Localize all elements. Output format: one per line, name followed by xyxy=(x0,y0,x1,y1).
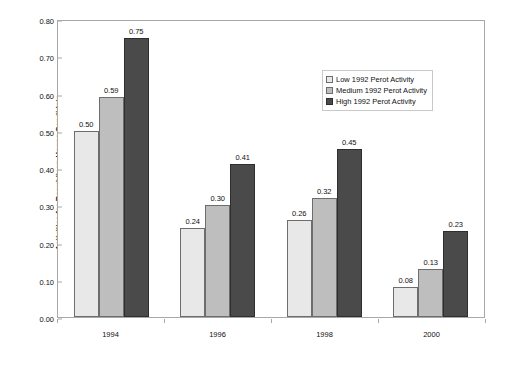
legend-swatch-icon xyxy=(326,98,333,105)
bar-slot: 0.41 xyxy=(230,164,255,317)
bar-value-label: 0.41 xyxy=(235,153,250,162)
bar-group: 0.080.130.23 xyxy=(378,21,485,317)
bar-value-label: 0.45 xyxy=(342,138,357,147)
bar-slot: 0.30 xyxy=(205,205,230,317)
bar-slot: 0.08 xyxy=(393,287,418,317)
x-tick-label-1998: 1998 xyxy=(271,319,378,339)
bar-groups: 0.500.590.750.240.300.410.260.320.450.08… xyxy=(58,21,484,317)
bar-slot: 0.75 xyxy=(124,38,149,317)
bar-slot: 0.50 xyxy=(74,131,99,317)
bar-value-label: 0.13 xyxy=(423,258,438,267)
y-tick-label: 0.30 xyxy=(39,203,58,212)
x-tick-mark xyxy=(271,319,272,323)
bar-slot: 0.59 xyxy=(99,97,124,317)
bar-low-1994[interactable] xyxy=(74,131,99,317)
bar-value-label: 0.24 xyxy=(185,217,200,226)
plot-area: 0.800.700.600.500.400.300.200.100.00 0.5… xyxy=(57,20,485,318)
x-tick-label-2000: 2000 xyxy=(378,319,485,339)
bar-low-1996[interactable] xyxy=(180,228,205,317)
x-tick-mark xyxy=(57,319,58,323)
legend-swatch-icon xyxy=(326,76,333,83)
chart-legend: Low 1992 Perot ActivityMedium 1992 Perot… xyxy=(322,70,433,111)
y-tick-label: 0.40 xyxy=(39,166,58,175)
bar-high-2000[interactable] xyxy=(443,231,468,317)
bar-group: 0.240.300.41 xyxy=(165,21,272,317)
bar-value-label: 0.32 xyxy=(317,187,332,196)
bar-value-label: 0.50 xyxy=(79,120,94,129)
bar-value-label: 0.75 xyxy=(129,27,144,36)
bar-value-label: 0.59 xyxy=(104,86,119,95)
y-tick-label: 0.80 xyxy=(39,17,58,26)
x-tick-label-1996: 1996 xyxy=(164,319,271,339)
y-tick-label: 0.00 xyxy=(39,315,58,324)
legend-swatch-icon xyxy=(326,87,333,94)
bar-slot: 0.13 xyxy=(418,269,443,317)
y-tick-label: 0.50 xyxy=(39,128,58,137)
x-tick-mark xyxy=(164,319,165,323)
bar-slot: 0.23 xyxy=(443,231,468,317)
bar-high-1998[interactable] xyxy=(337,149,362,317)
bar-group: 0.500.590.75 xyxy=(58,21,165,317)
legend-item-label: High 1992 Perot Activity xyxy=(336,97,416,106)
bar-slot: 0.24 xyxy=(180,228,205,317)
bar-value-label: 0.26 xyxy=(292,209,307,218)
x-tick-mark xyxy=(485,319,486,323)
bar-medium-2000[interactable] xyxy=(418,269,443,317)
bar-value-label: 0.08 xyxy=(398,276,413,285)
legend-item-low[interactable]: Low 1992 Perot Activity xyxy=(326,74,427,85)
bar-high-1996[interactable] xyxy=(230,164,255,317)
bar-low-2000[interactable] xyxy=(393,287,418,317)
bar-low-1998[interactable] xyxy=(287,220,312,317)
x-tick-mark xyxy=(378,319,379,323)
y-tick-label: 0.20 xyxy=(39,240,58,249)
bar-chart: Activities for Republican House Candidat… xyxy=(0,0,505,368)
bar-group: 0.260.320.45 xyxy=(271,21,378,317)
bar-value-label: 0.23 xyxy=(448,220,463,229)
y-tick-label: 0.60 xyxy=(39,91,58,100)
legend-item-high[interactable]: High 1992 Perot Activity xyxy=(326,96,427,107)
bar-slot: 0.45 xyxy=(337,149,362,317)
bar-medium-1998[interactable] xyxy=(312,198,337,317)
bar-slot: 0.32 xyxy=(312,198,337,317)
bar-high-1994[interactable] xyxy=(124,38,149,317)
legend-item-label: Medium 1992 Perot Activity xyxy=(336,86,427,95)
legend-item-label: Low 1992 Perot Activity xyxy=(336,75,414,84)
bar-medium-1996[interactable] xyxy=(205,205,230,317)
bar-value-label: 0.30 xyxy=(210,194,225,203)
y-tick-label: 0.10 xyxy=(39,277,58,286)
bar-slot: 0.26 xyxy=(287,220,312,317)
legend-item-medium[interactable]: Medium 1992 Perot Activity xyxy=(326,85,427,96)
x-axis-categories: 1994199619982000 xyxy=(57,319,485,339)
y-tick-label: 0.70 xyxy=(39,54,58,63)
bar-medium-1994[interactable] xyxy=(99,97,124,317)
x-tick-label-1994: 1994 xyxy=(57,319,164,339)
